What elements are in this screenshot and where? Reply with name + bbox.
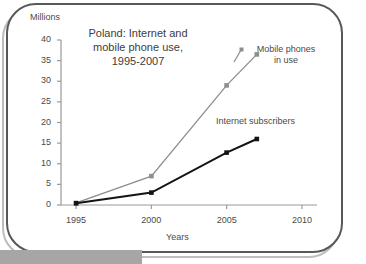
- x-axis-title: Years: [166, 232, 189, 242]
- data-point-marker: [255, 137, 260, 142]
- data-point-marker: [224, 150, 229, 155]
- data-point-marker: [149, 174, 154, 179]
- series-label-mobile-phones: Mobile phones in use: [246, 44, 326, 66]
- data-point-marker: [74, 201, 79, 206]
- y-tick-label: 30: [33, 75, 51, 85]
- y-tick-label: 35: [33, 55, 51, 65]
- series-label-internet-subscribers: Internet subscribers: [216, 116, 295, 127]
- y-tick-label: 0: [33, 199, 51, 209]
- series-label-mobile-line-1: Mobile phones: [246, 44, 326, 55]
- chart-title-line-3: 1995-2007: [74, 54, 202, 68]
- chart-title-line-1: Poland: Internet and: [74, 26, 202, 40]
- data-point-marker: [149, 190, 154, 195]
- x-tick-label: 2010: [285, 215, 319, 225]
- x-tick-label: 2000: [134, 215, 168, 225]
- chart-title: Poland: Internet and mobile phone use, 1…: [74, 26, 202, 68]
- x-tick-label: 1995: [59, 215, 93, 225]
- y-tick-label: 40: [33, 34, 51, 44]
- y-tick-label: 20: [33, 117, 51, 127]
- y-tick-label: 25: [33, 96, 51, 106]
- y-tick-label: 15: [33, 137, 51, 147]
- y-tick-label: 10: [33, 158, 51, 168]
- chart-title-line-2: mobile phone use,: [74, 40, 202, 54]
- y-tick-label: 5: [33, 178, 51, 188]
- series-label-mobile-line-2: in use: [246, 55, 326, 66]
- x-tick-label: 2005: [210, 215, 244, 225]
- data-point-marker: [224, 83, 229, 88]
- y-axis-unit-label: Millions: [30, 12, 60, 22]
